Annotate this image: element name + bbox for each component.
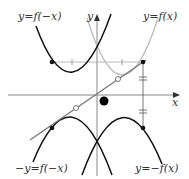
point-neg-f-neg-x (50, 126, 55, 131)
label-x-axis: x (172, 96, 179, 109)
label-f-neg-x: y=f(−x) (17, 10, 62, 23)
y-axis-arrow-icon (94, 14, 100, 21)
label-neg-f-x: y=−f(x) (134, 162, 179, 175)
point-f-x (141, 60, 146, 65)
label-neg-f-neg-x: −y=f(−x) (15, 162, 68, 175)
label-f-x: y=f(x) (142, 10, 177, 23)
function-transform-diagram: y=f(−x) y=f(x) y x −y=f(−x) y=−f(x) (0, 0, 189, 179)
point-neg-f-x (141, 126, 146, 131)
center-dot (100, 97, 109, 106)
hollow-point (74, 106, 79, 111)
label-y-axis: y (86, 10, 94, 23)
point-f-neg-x (50, 60, 55, 65)
hollow-point (116, 77, 121, 82)
